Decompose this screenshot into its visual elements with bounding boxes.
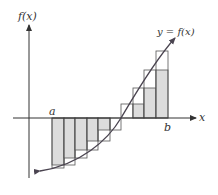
shaded-rectangle	[144, 88, 156, 118]
a-label: a	[49, 106, 56, 117]
shaded-rectangle	[64, 118, 75, 158]
y-axis-label: f(x)	[18, 11, 37, 22]
b-label: b	[164, 122, 171, 133]
shaded-rectangle	[98, 118, 110, 130]
x-axis-label: x	[199, 112, 205, 123]
shaded-rectangle	[75, 118, 87, 150]
riemann-rectangles	[52, 51, 168, 168]
curve-label: y = f(x)	[157, 27, 195, 37]
shaded-rectangle	[156, 70, 168, 118]
shaded-rectangle	[52, 118, 64, 165]
shaded-rectangle	[133, 104, 144, 118]
shaded-rectangle	[87, 118, 98, 141]
riemann-sum-diagram: f(x) y = f(x) a b x	[0, 0, 218, 195]
